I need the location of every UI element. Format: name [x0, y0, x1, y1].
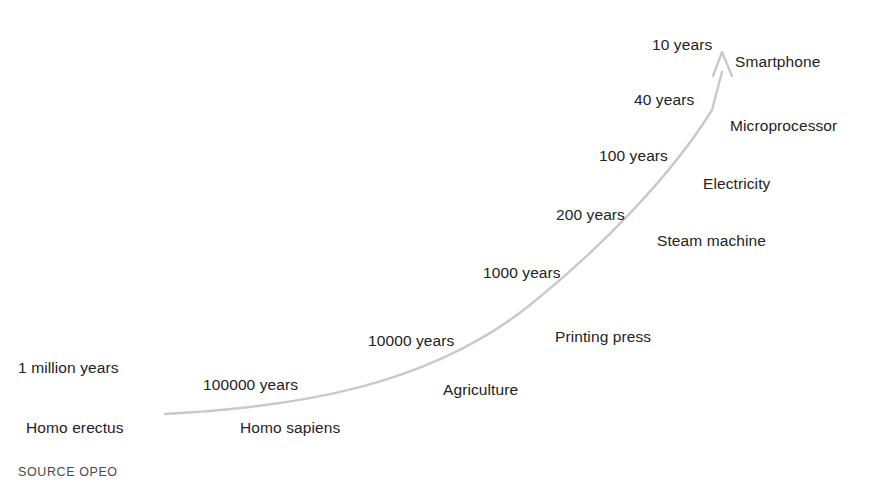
event-label-smartphone: Smartphone: [735, 54, 820, 70]
event-label-homo-sapiens: Homo sapiens: [240, 420, 340, 436]
exponential-curve: [0, 0, 876, 504]
period-label-10-years: 10 years: [652, 37, 712, 53]
period-label-200-years: 200 years: [556, 207, 625, 223]
source-credit: SOURCE OPEO: [18, 466, 118, 479]
period-label-100000-years: 100000 years: [203, 377, 298, 393]
period-label-40-years: 40 years: [634, 92, 694, 108]
event-label-printing-press: Printing press: [555, 329, 651, 345]
period-label-100-years: 100 years: [599, 148, 668, 164]
event-label-electricity: Electricity: [703, 176, 770, 192]
period-label-1-million-years: 1 million years: [18, 360, 119, 376]
period-label-1000-years: 1000 years: [483, 265, 561, 281]
event-label-microprocessor: Microprocessor: [730, 118, 837, 134]
event-label-homo-erectus: Homo erectus: [26, 420, 124, 436]
growth-curve-path: [165, 72, 722, 414]
event-label-agriculture: Agriculture: [443, 382, 518, 398]
period-label-10000-years: 10000 years: [368, 333, 454, 349]
event-label-steam-machine: Steam machine: [657, 233, 766, 249]
infographic-canvas: Accelerating pace of innovation 1 millio…: [0, 0, 876, 504]
